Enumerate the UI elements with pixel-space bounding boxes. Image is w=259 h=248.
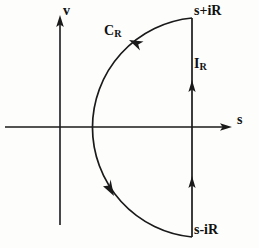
arc-label-base: C (104, 23, 114, 38)
contour-endpoint-bottom-label: s-iR (194, 223, 218, 237)
x-axis-label: s (237, 113, 242, 127)
vertical-axis (56, 15, 64, 225)
arc-label-subscript: R (114, 28, 121, 39)
contour-figure: v s s+iR s-iR CR IR (0, 0, 259, 248)
y-axis-label: v (63, 4, 70, 18)
segment-label: IR (194, 57, 207, 72)
horizontal-axis (5, 123, 232, 131)
arc-arrow-upper-icon (129, 40, 144, 50)
contour-diagram-svg (0, 0, 259, 248)
contour-endpoint-top-label: s+iR (194, 4, 221, 18)
arc-label: CR (104, 24, 121, 39)
segment-label-subscript: R (199, 61, 206, 72)
arc-arrow-lower-icon (103, 180, 114, 196)
